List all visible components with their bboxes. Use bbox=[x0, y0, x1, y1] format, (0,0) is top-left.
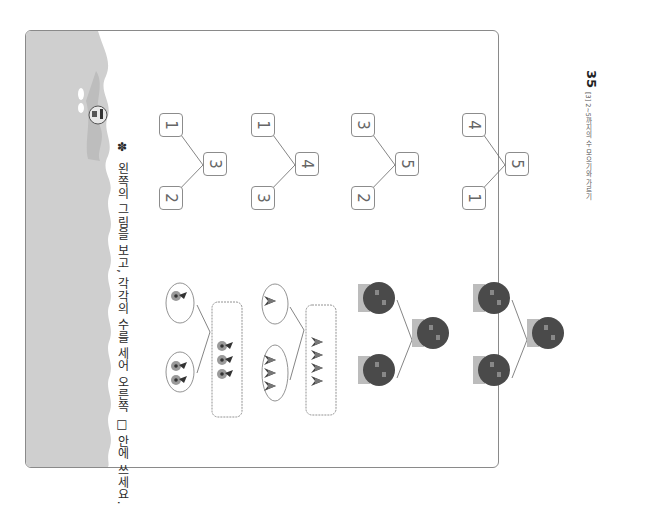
bond-1-left-box: 2 bbox=[159, 186, 183, 210]
tulip-icon bbox=[311, 337, 323, 386]
jar-icon bbox=[473, 354, 510, 386]
jar-icon bbox=[527, 317, 564, 349]
picture-jars-1 bbox=[355, 270, 465, 420]
flower-icon bbox=[171, 291, 187, 301]
bond-1-total-box: 3 bbox=[203, 152, 227, 176]
flower-icon bbox=[217, 341, 233, 379]
tulip-icon bbox=[264, 296, 276, 306]
bond-3-right-box: 3 bbox=[351, 113, 375, 137]
bond-4-right-box: 4 bbox=[462, 113, 486, 137]
bond-2-right-box: 1 bbox=[251, 113, 275, 137]
bond-1-right-box: 1 bbox=[159, 113, 183, 137]
bond-4-total-box: 5 bbox=[505, 152, 529, 176]
jar-icon bbox=[412, 317, 449, 349]
picture-jars-2 bbox=[470, 270, 580, 420]
jar-icon bbox=[358, 282, 395, 314]
jar-icon bbox=[473, 282, 510, 314]
bond-2-left-box: 3 bbox=[251, 186, 275, 210]
picture-tulips bbox=[250, 270, 350, 420]
bond-3-total-box: 5 bbox=[395, 152, 419, 176]
flower-icon bbox=[171, 361, 187, 385]
bond-2-total-box: 4 bbox=[295, 152, 319, 176]
bond-3-left-box: 2 bbox=[351, 186, 375, 210]
jar-icon bbox=[358, 354, 395, 386]
bond-4-left-box: 1 bbox=[462, 186, 486, 210]
tulip-icon bbox=[264, 355, 276, 391]
picture-flowers bbox=[160, 270, 260, 420]
